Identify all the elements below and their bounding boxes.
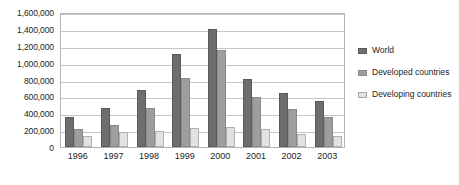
y-axis-tick: 1,400,000: [17, 26, 54, 35]
bar-group: [310, 14, 346, 147]
y-axis-tick: 800,000: [24, 76, 54, 85]
bar: [243, 79, 252, 147]
bar: [315, 101, 324, 147]
bar: [288, 109, 297, 147]
legend-item[interactable]: Developing countries: [358, 86, 459, 103]
bar: [181, 78, 190, 147]
legend-swatch-icon: [358, 70, 367, 76]
bar: [172, 54, 181, 147]
bar: [333, 136, 342, 147]
bar-groups: [61, 14, 344, 147]
x-axis-tick: 2001: [246, 152, 266, 161]
bar: [297, 134, 306, 148]
legend-swatch-icon: [358, 48, 367, 54]
y-axis-tick: 1,600,000: [17, 9, 54, 18]
x-axis-tick: 1996: [68, 152, 88, 161]
legend-swatch-icon: [358, 92, 367, 98]
x-axis-tick-labels: 19961997199819992000200120022003: [60, 152, 345, 168]
bar: [261, 129, 270, 147]
bar: [217, 50, 226, 147]
bar: [155, 131, 164, 147]
bar: [119, 132, 128, 147]
bar: [252, 97, 261, 147]
y-axis-tick: 1,200,000: [17, 43, 54, 52]
plot-area: [60, 13, 345, 148]
legend-item[interactable]: Developed countries: [358, 64, 459, 81]
bar-group: [61, 14, 97, 147]
bar-group: [204, 14, 240, 147]
bar: [226, 127, 235, 147]
bar: [65, 117, 74, 147]
x-axis-tick: 2003: [317, 152, 337, 161]
bar: [190, 128, 199, 147]
chart-legend: WorldDeveloped countriesDeveloping count…: [358, 42, 459, 108]
bar-group: [97, 14, 133, 147]
bar-group: [168, 14, 204, 147]
y-axis-tick: 400,000: [24, 110, 54, 119]
bar: [83, 136, 92, 147]
bar: [279, 93, 288, 147]
bar-group: [132, 14, 168, 147]
legend-label: Developed countries: [372, 68, 450, 77]
legend-label: World: [372, 46, 394, 55]
bar: [101, 108, 110, 147]
bar: [137, 90, 146, 147]
bar: [208, 29, 217, 147]
bar-chart: 0200,000400,000600,000800,0001,000,0001,…: [0, 0, 459, 185]
x-axis-tick: 1998: [139, 152, 159, 161]
x-axis-tick: 1999: [175, 152, 195, 161]
bar: [146, 108, 155, 147]
legend-label: Developing countries: [372, 90, 451, 99]
bar-group: [239, 14, 275, 147]
y-axis-tick: 1,000,000: [17, 59, 54, 68]
y-axis-tick-labels: 0200,000400,000600,000800,0001,000,0001,…: [0, 13, 58, 148]
bar: [324, 117, 333, 147]
y-axis-tick: 600,000: [24, 93, 54, 102]
y-axis-tick: 0: [49, 144, 54, 153]
bar: [110, 125, 119, 147]
x-axis-tick: 2000: [210, 152, 230, 161]
legend-item[interactable]: World: [358, 42, 459, 59]
bar-group: [275, 14, 311, 147]
x-axis-tick: 1997: [103, 152, 123, 161]
x-axis-tick: 2002: [282, 152, 302, 161]
y-axis-tick: 200,000: [24, 127, 54, 136]
bar: [74, 129, 83, 147]
